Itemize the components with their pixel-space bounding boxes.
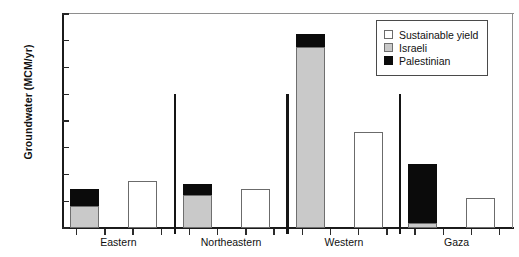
abstraction-bar-western (296, 34, 325, 228)
groundwater-bar-chart: Groundwater (MCM/yr) 0501001502002503003… (0, 0, 519, 257)
y-axis-title: Groundwater (MCM/yr) (22, 22, 34, 182)
plot-frame-top (62, 13, 514, 14)
legend-item: Palestinian (384, 56, 478, 67)
bar-segment-israeli (70, 206, 99, 228)
bar-segment-sustainable-yield (354, 132, 383, 228)
y-axis-tick (62, 120, 69, 121)
x-axis-tick (76, 229, 77, 235)
x-axis-tick (499, 229, 500, 235)
plot-frame-right (512, 13, 513, 228)
y-axis-tick (62, 174, 69, 175)
x-axis-tick (273, 229, 274, 235)
y-axis-tick (62, 13, 69, 14)
x-axis-tick (245, 229, 246, 235)
bar-segment-sustainable-yield (128, 181, 157, 228)
x-axis-tick (330, 229, 331, 235)
bar-segment-sustainable-yield (466, 198, 495, 228)
bar-segment-palestinian (408, 164, 437, 223)
x-axis-tick (302, 229, 303, 235)
bar-segment-israeli (183, 195, 212, 228)
legend-item: Sustainable yield (384, 30, 478, 41)
y-axis-tick (62, 227, 69, 228)
group-separator (286, 94, 288, 234)
x-axis-tick (386, 229, 387, 235)
gray-square-icon (384, 43, 393, 52)
y-axis-tick (62, 147, 69, 148)
sustainable-yield-bar-eastern (128, 181, 157, 228)
bar-segment-israeli (408, 223, 437, 228)
bar-segment-sustainable-yield (241, 189, 270, 228)
x-axis-tick (443, 229, 444, 235)
chart-legend: Sustainable yield Israeli Palestinian (376, 20, 488, 76)
x-axis-group-label: Gaza (400, 236, 513, 248)
abstraction-bar-northeastern (183, 184, 212, 228)
y-axis-tick (62, 94, 69, 95)
x-axis-tick (471, 229, 472, 235)
bar-segment-palestinian (183, 184, 212, 195)
x-axis-tick (414, 229, 415, 235)
sustainable-yield-bar-northeastern (241, 189, 270, 228)
abstraction-bar-gaza (408, 164, 437, 228)
x-axis-tick (161, 229, 162, 235)
legend-label: Palestinian (399, 56, 450, 67)
y-axis-tick (62, 40, 69, 41)
sustainable-yield-bar-western (354, 132, 383, 228)
x-axis-tick (189, 229, 190, 235)
y-axis-tick (62, 67, 69, 68)
x-axis-group-label: Eastern (62, 236, 175, 248)
y-axis-tick (62, 201, 69, 202)
x-axis-group-label: Northeastern (175, 236, 288, 248)
bar-segment-palestinian (296, 34, 325, 47)
white-square-icon (384, 30, 393, 39)
legend-label: Israeli (399, 43, 427, 54)
group-separator (399, 94, 401, 234)
x-axis-tick (358, 229, 359, 235)
group-separator (174, 94, 176, 234)
x-axis-tick (104, 229, 105, 235)
x-axis-tick (217, 229, 218, 235)
x-axis-group-label: Western (288, 236, 401, 248)
black-square-icon (384, 56, 393, 65)
legend-label: Sustainable yield (399, 30, 478, 41)
abstraction-bar-eastern (70, 189, 99, 228)
bar-segment-israeli (296, 47, 325, 228)
legend-item: Israeli (384, 43, 478, 54)
sustainable-yield-bar-gaza (466, 198, 495, 228)
bar-segment-palestinian (70, 189, 99, 205)
x-axis-tick (132, 229, 133, 235)
